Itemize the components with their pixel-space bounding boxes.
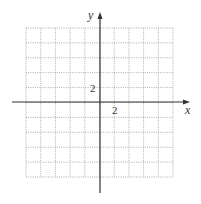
y-axis-label: y — [87, 8, 94, 22]
y-tick-label: 2 — [90, 82, 96, 94]
coordinate-plane: x y 2 2 — [0, 0, 201, 204]
x-axis-label: x — [184, 103, 191, 117]
x-tick-label: 2 — [112, 104, 118, 116]
y-axis-arrow-icon — [98, 12, 103, 19]
